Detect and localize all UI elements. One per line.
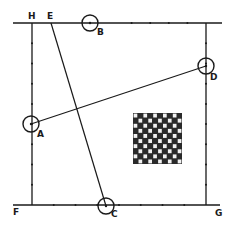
point-g: G [215, 208, 222, 218]
tick-dot [205, 143, 207, 145]
tick-dot [205, 123, 207, 125]
point-label: F [13, 207, 19, 217]
checker-cell [178, 119, 182, 123]
tick-dot [149, 22, 151, 24]
pivot-center-dot [205, 65, 207, 67]
checker-cell [148, 139, 152, 143]
checker-cell [153, 134, 157, 138]
tick-dot [186, 22, 188, 24]
tick-dot [140, 204, 142, 206]
tick-dot [131, 22, 133, 24]
checker-cell [158, 129, 162, 133]
tick-dot [205, 184, 207, 186]
checker-cell [148, 129, 152, 133]
tick-dot [31, 184, 33, 186]
checker-cell [158, 119, 162, 123]
checker-cell [178, 129, 182, 133]
checker-cell [134, 134, 138, 138]
pivot-center-dot [105, 205, 107, 207]
checker-cell [139, 149, 143, 153]
checker-cell [143, 144, 147, 148]
checker-cell [158, 149, 162, 153]
checker-cell [153, 114, 157, 118]
checker-cell [153, 124, 157, 128]
checker-cell [173, 114, 177, 118]
point-c: C [98, 198, 118, 219]
checker-cell [148, 119, 152, 123]
point-d: D [198, 58, 217, 82]
checker-cell [134, 154, 138, 158]
checker-cell [139, 139, 143, 143]
tick-dot [31, 103, 33, 105]
checker-cell [168, 139, 172, 143]
point-label: E [47, 11, 53, 21]
tick-dot [183, 204, 185, 206]
checker-cell [139, 129, 143, 133]
tick-dot [31, 42, 33, 44]
checkerboard-pattern [133, 113, 182, 164]
point-label: D [210, 72, 217, 82]
tick-dot [205, 103, 207, 105]
tick-dot [53, 204, 55, 206]
checker-cell [153, 144, 157, 148]
point-h: H [28, 11, 36, 21]
checker-cell [163, 114, 167, 118]
point-label: C [111, 209, 118, 219]
point-label: B [97, 27, 104, 37]
labeled-points: ABCDEFGH [13, 11, 222, 219]
checker-cell [139, 119, 143, 123]
tick-dot [205, 164, 207, 166]
checker-cell [143, 114, 147, 118]
tick-dot [31, 83, 33, 85]
pivot-center-dot [89, 22, 91, 24]
checker-cell [168, 119, 172, 123]
checker-cell [139, 160, 143, 164]
tick-dot [205, 62, 207, 64]
checker-cell [153, 154, 157, 158]
checker-cell [134, 124, 138, 128]
checker-cell [148, 149, 152, 153]
pivot-center-dot [30, 123, 32, 125]
tick-dot [31, 143, 33, 145]
checker-cell [178, 160, 182, 164]
point-f: F [13, 207, 19, 217]
checker-cell [178, 139, 182, 143]
checker-cell [168, 129, 172, 133]
point-label: G [215, 208, 222, 218]
point-a: A [23, 116, 44, 139]
checker-cell [158, 139, 162, 143]
diagram-canvas: ABCDEFGH [0, 0, 237, 227]
checker-cell [143, 134, 147, 138]
checker-cell [163, 154, 167, 158]
tick-dot [31, 164, 33, 166]
checker-cell [173, 124, 177, 128]
checker-cell [173, 134, 177, 138]
checker-cell [148, 160, 152, 164]
checker-cell [134, 114, 138, 118]
point-label: A [37, 129, 44, 139]
frame-lines [13, 23, 222, 205]
point-e: E [47, 11, 53, 21]
checker-cell [168, 149, 172, 153]
checker-cell [143, 154, 147, 158]
tick-dot [31, 62, 33, 64]
tick-dot [205, 42, 207, 44]
checker-cell [173, 144, 177, 148]
checker-cell [143, 124, 147, 128]
checker-cell [178, 149, 182, 153]
checker-cell [168, 160, 172, 164]
tick-dot [168, 22, 170, 24]
checker-cell [163, 124, 167, 128]
tick-dot [205, 83, 207, 85]
tick-dot [162, 204, 164, 206]
checker-cell [163, 134, 167, 138]
checker-cell [158, 160, 162, 164]
checker-cell [163, 144, 167, 148]
checker-cell [134, 144, 138, 148]
point-b: B [82, 15, 104, 37]
checker-cell [173, 154, 177, 158]
tick-dot [75, 204, 77, 206]
tick-dot [118, 204, 120, 206]
point-label: H [28, 11, 36, 21]
